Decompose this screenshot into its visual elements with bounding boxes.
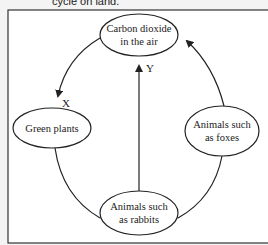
node-plants-label: Green plants bbox=[25, 123, 78, 134]
node-rabbits: Animals such as rabbits bbox=[100, 191, 178, 235]
node-foxes-line1: Animals such bbox=[193, 119, 251, 130]
node-green-plants: Green plants bbox=[13, 108, 91, 148]
node-co2-line1: Carbon dioxide bbox=[106, 23, 171, 34]
node-co2-line2: in the air bbox=[120, 36, 158, 47]
node-foxes-line2: as foxes bbox=[205, 132, 239, 143]
node-rabbits-line2: as rabbits bbox=[119, 214, 159, 225]
carbon-cycle-diagram: X Y Carbon dioxide in the air Green plan… bbox=[0, 0, 268, 245]
node-carbon-dioxide: Carbon dioxide in the air bbox=[100, 14, 178, 56]
arrow-x-label: X bbox=[62, 97, 70, 109]
node-rabbits-line1: Animals such bbox=[110, 201, 168, 212]
node-foxes: Animals such as foxes bbox=[185, 106, 259, 156]
arrow-y-label: Y bbox=[146, 62, 154, 74]
